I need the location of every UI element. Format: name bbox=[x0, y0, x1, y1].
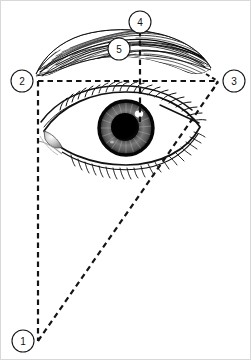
iris-group bbox=[98, 100, 154, 156]
marker-2-circle[interactable] bbox=[11, 70, 33, 92]
corneal-highlight-secondary bbox=[110, 141, 114, 144]
eye bbox=[38, 82, 206, 179]
marker-5[interactable]: 5 bbox=[108, 38, 130, 60]
marker-1-circle[interactable] bbox=[12, 330, 34, 352]
marker-5-circle[interactable] bbox=[108, 38, 130, 60]
pupil bbox=[111, 113, 139, 141]
marker-1[interactable]: 1 bbox=[12, 330, 34, 352]
apex-corner-tick bbox=[206, 74, 218, 93]
marker-4[interactable]: 4 bbox=[129, 11, 151, 33]
marker-3-circle[interactable] bbox=[223, 70, 245, 92]
marker-3[interactable]: 3 bbox=[223, 70, 245, 92]
construction-lines bbox=[38, 31, 218, 341]
figure-container: Eyebrow and eye proportion reference dia… bbox=[0, 0, 251, 360]
marker-4-circle[interactable] bbox=[129, 11, 151, 33]
marker-2[interactable]: 2 bbox=[11, 70, 33, 92]
eye-diagram-svg: Eyebrow and eye proportion reference dia… bbox=[0, 0, 251, 360]
